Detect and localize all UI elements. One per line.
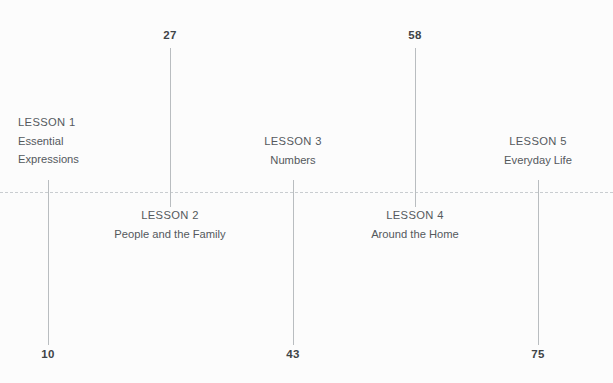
connector-line-lesson-2-tick [170, 192, 171, 207]
lesson-label-4: LESSON 4 Around the Home [371, 206, 459, 243]
page-number-43: 43 [286, 348, 299, 360]
lesson-label-3: LESSON 3 Numbers [264, 132, 322, 169]
lesson-1-subtitle-line-2: Expressions [18, 150, 79, 169]
lesson-2-subtitle-line-1: People and the Family [114, 225, 225, 244]
connector-line-lesson-1-stem [48, 192, 49, 345]
lesson-label-5: LESSON 5 Everyday Life [504, 132, 572, 169]
page-number-75: 75 [531, 348, 544, 360]
page-number-10: 10 [41, 348, 54, 360]
lesson-2-title: LESSON 2 [114, 206, 225, 225]
connector-line-lesson-5-stem [538, 192, 539, 345]
lesson-label-1: LESSON 1 Essential Expressions [18, 113, 79, 169]
lesson-3-title: LESSON 3 [264, 132, 322, 151]
lesson-3-subtitle-line-1: Numbers [264, 151, 322, 170]
connector-line-lesson-4-stem [415, 48, 416, 193]
lesson-timeline-diagram: LESSON 1 Essential Expressions 10 27 LES… [0, 0, 613, 383]
lesson-5-subtitle-line-1: Everyday Life [504, 151, 572, 170]
connector-line-lesson-4-tick [415, 192, 416, 207]
lesson-1-title: LESSON 1 [18, 113, 79, 132]
connector-line-lesson-2-stem [170, 48, 171, 193]
lesson-4-title: LESSON 4 [371, 206, 459, 225]
page-number-27: 27 [163, 29, 176, 41]
lesson-label-2: LESSON 2 People and the Family [114, 206, 225, 243]
timeline-axis [0, 192, 613, 193]
lesson-5-title: LESSON 5 [504, 132, 572, 151]
connector-line-lesson-3-stem [293, 192, 294, 345]
lesson-1-subtitle-line-1: Essential [18, 132, 79, 151]
page-number-58: 58 [408, 29, 421, 41]
lesson-4-subtitle-line-1: Around the Home [371, 225, 459, 244]
